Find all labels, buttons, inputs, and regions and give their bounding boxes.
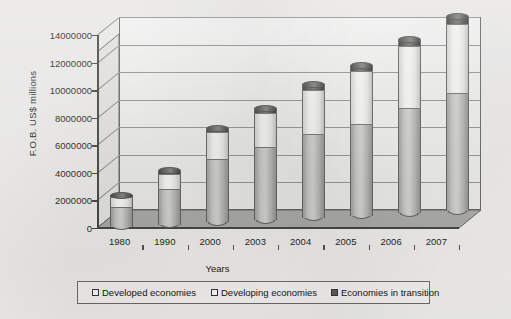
y-axis-tick-mark (92, 145, 97, 146)
chart-legend: Developed economiesDeveloping economiesE… (77, 281, 430, 304)
y-axis-tick-mark (92, 228, 97, 229)
bar-segment-divider (158, 174, 181, 175)
bar-segment-divider (110, 207, 133, 208)
x-axis-tick-label: 2006 (381, 236, 402, 247)
x-axis-title: Years (0, 263, 511, 274)
bar-segment-divider (398, 108, 421, 109)
bar-segment-divider (206, 159, 229, 160)
bar-segment-developed[interactable] (254, 148, 277, 220)
legend-item[interactable]: Developed economies (92, 287, 196, 298)
chart-figure: F.O.B. US$ millions 02000000400000060000… (0, 0, 511, 319)
x-axis-tick-label: 1980 (109, 236, 130, 247)
cylinder-top-cap (254, 105, 277, 112)
y-axis-tick-mark (92, 173, 97, 174)
legend-swatch-developing-icon (211, 289, 218, 296)
bar-segment-developing[interactable] (158, 175, 181, 190)
bar-segment-divider (350, 71, 373, 72)
x-axis-tick-label: 2000 (200, 236, 221, 247)
bar-segment-developing[interactable] (398, 47, 421, 109)
cylinder-top-cap (398, 36, 421, 43)
legend-item[interactable]: Economies in transition (331, 287, 439, 298)
legend-item-label: Developing economies (221, 287, 317, 298)
bar-segment-divider (350, 124, 373, 125)
bar-column[interactable] (350, 0, 373, 216)
bar-segment-developed[interactable] (350, 125, 373, 216)
bar-column[interactable] (446, 0, 469, 211)
x-axis-tick-label: 1990 (154, 236, 175, 247)
x-axis-title-text: Years (206, 263, 230, 274)
x-axis-tick-labels: 19801990200020032004200520062007 (0, 236, 511, 256)
bar-segment-developing[interactable] (206, 133, 229, 161)
bar-segment-developing[interactable] (350, 72, 373, 124)
bar-segment-developing[interactable] (446, 25, 469, 94)
x-axis-tick-label: 2004 (290, 236, 311, 247)
bar-segment-developed[interactable] (446, 94, 469, 211)
cylinder-top-cap (206, 125, 229, 132)
bar-segment-developing[interactable] (254, 114, 277, 148)
bar-column[interactable] (302, 0, 325, 218)
bar-segment-divider (398, 46, 421, 47)
x-axis-tick-label: 2003 (245, 236, 266, 247)
legend-item-label: Economies in transition (341, 287, 439, 298)
x-axis-line (97, 227, 459, 229)
y-axis-tick-mark (92, 35, 97, 36)
cylinder-top-cap (302, 81, 325, 88)
bar-segment-divider (302, 90, 325, 91)
bar-column[interactable] (158, 0, 181, 225)
cylinder-top-cap (110, 192, 133, 199)
y-axis-tick-mark (92, 90, 97, 91)
bar-segment-divider (302, 134, 325, 135)
cylinder-top-cap (350, 62, 373, 69)
bar-column[interactable] (110, 0, 133, 227)
bar-segment-developing[interactable] (302, 91, 325, 135)
bar-segment-divider (446, 93, 469, 94)
legend-item-label: Developed economies (102, 287, 196, 298)
bar-segment-developed[interactable] (110, 208, 133, 227)
bar-segment-developed[interactable] (302, 135, 325, 218)
bar-segment-divider (254, 113, 277, 114)
x-axis-tick-label: 2007 (426, 236, 447, 247)
legend-swatch-developed-icon (92, 289, 99, 296)
y-axis-tick-mark (92, 118, 97, 119)
y-axis-tick-mark (92, 200, 97, 201)
x-axis-tick-label: 2005 (335, 236, 356, 247)
legend-swatch-transition-icon (331, 289, 338, 296)
bar-segment-divider (158, 189, 181, 190)
bar-segment-divider (446, 24, 469, 25)
plot-area (0, 0, 511, 260)
legend-item[interactable]: Developing economies (211, 287, 317, 298)
y-axis-line (97, 35, 99, 228)
bar-column[interactable] (254, 0, 277, 220)
bar-segment-developed[interactable] (206, 160, 229, 222)
bar-segment-divider (254, 147, 277, 148)
bar-column[interactable] (206, 0, 229, 222)
bar-column[interactable] (398, 0, 421, 213)
bar-segment-developed[interactable] (398, 109, 421, 214)
bar-segment-developed[interactable] (158, 190, 181, 224)
y-axis-tick-mark (92, 63, 97, 64)
